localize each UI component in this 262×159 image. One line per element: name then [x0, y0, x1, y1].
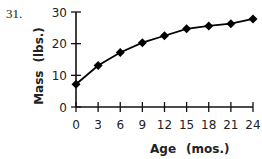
x-tick-label: 18 — [201, 118, 216, 132]
chart-series — [72, 14, 258, 88]
y-tick-label: 20 — [52, 37, 67, 51]
x-tick-label: 21 — [223, 118, 238, 132]
y-tick-label: 10 — [52, 69, 67, 83]
line-chart: 010203003691215182124 Age(mos.) Mass(lbs… — [0, 0, 262, 159]
diamond-marker-icon — [116, 48, 125, 57]
diamond-marker-icon — [160, 31, 169, 40]
diamond-marker-icon — [138, 38, 147, 47]
x-tick-label: 6 — [116, 118, 124, 132]
diamond-marker-icon — [182, 24, 191, 33]
x-tick-label: 12 — [157, 118, 172, 132]
diamond-marker-icon — [249, 14, 258, 23]
y-tick-label: 30 — [52, 6, 67, 20]
x-tick-label: 9 — [139, 118, 147, 132]
x-tick-label: 3 — [94, 118, 102, 132]
x-tick-label: 15 — [179, 118, 194, 132]
diamond-marker-icon — [226, 19, 235, 28]
data-line — [76, 19, 253, 84]
x-tick-label: 24 — [245, 118, 260, 132]
x-axis-unit: (mos.) — [186, 142, 229, 156]
y-axis-title: Mass(lbs.) — [32, 27, 46, 105]
y-axis-unit: (lbs.) — [32, 27, 46, 62]
y-axis-title-text: Mass — [32, 71, 46, 105]
x-axis-title-text: Age — [150, 142, 176, 156]
y-tick-label: 0 — [59, 101, 67, 115]
diamond-marker-icon — [204, 21, 213, 30]
x-tick-label: 0 — [72, 118, 80, 132]
x-axis-title: Age(mos.) — [150, 142, 229, 156]
